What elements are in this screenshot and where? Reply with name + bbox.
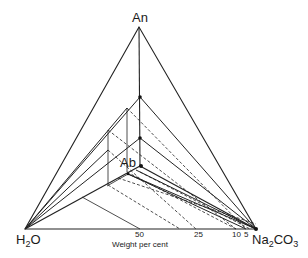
outer-triangle [25, 27, 256, 229]
vertex-label-h2o: H2O [16, 233, 41, 249]
diagram-lines [0, 0, 308, 258]
vertex-label-na2co3: Na2CO3 [252, 233, 298, 249]
vertex-label-an: An [132, 11, 148, 24]
tick-10: 10 [232, 231, 241, 239]
point-label-ab: Ab [120, 156, 136, 169]
tick-25: 25 [194, 231, 203, 239]
tick-50: 50 [135, 231, 144, 239]
axis-title: Weight per cent [112, 241, 168, 249]
tick-5: 5 [244, 231, 248, 239]
ternary-diagram: An Ab H2O Na2CO3 50 25 10 5 Weight per c… [0, 0, 308, 258]
